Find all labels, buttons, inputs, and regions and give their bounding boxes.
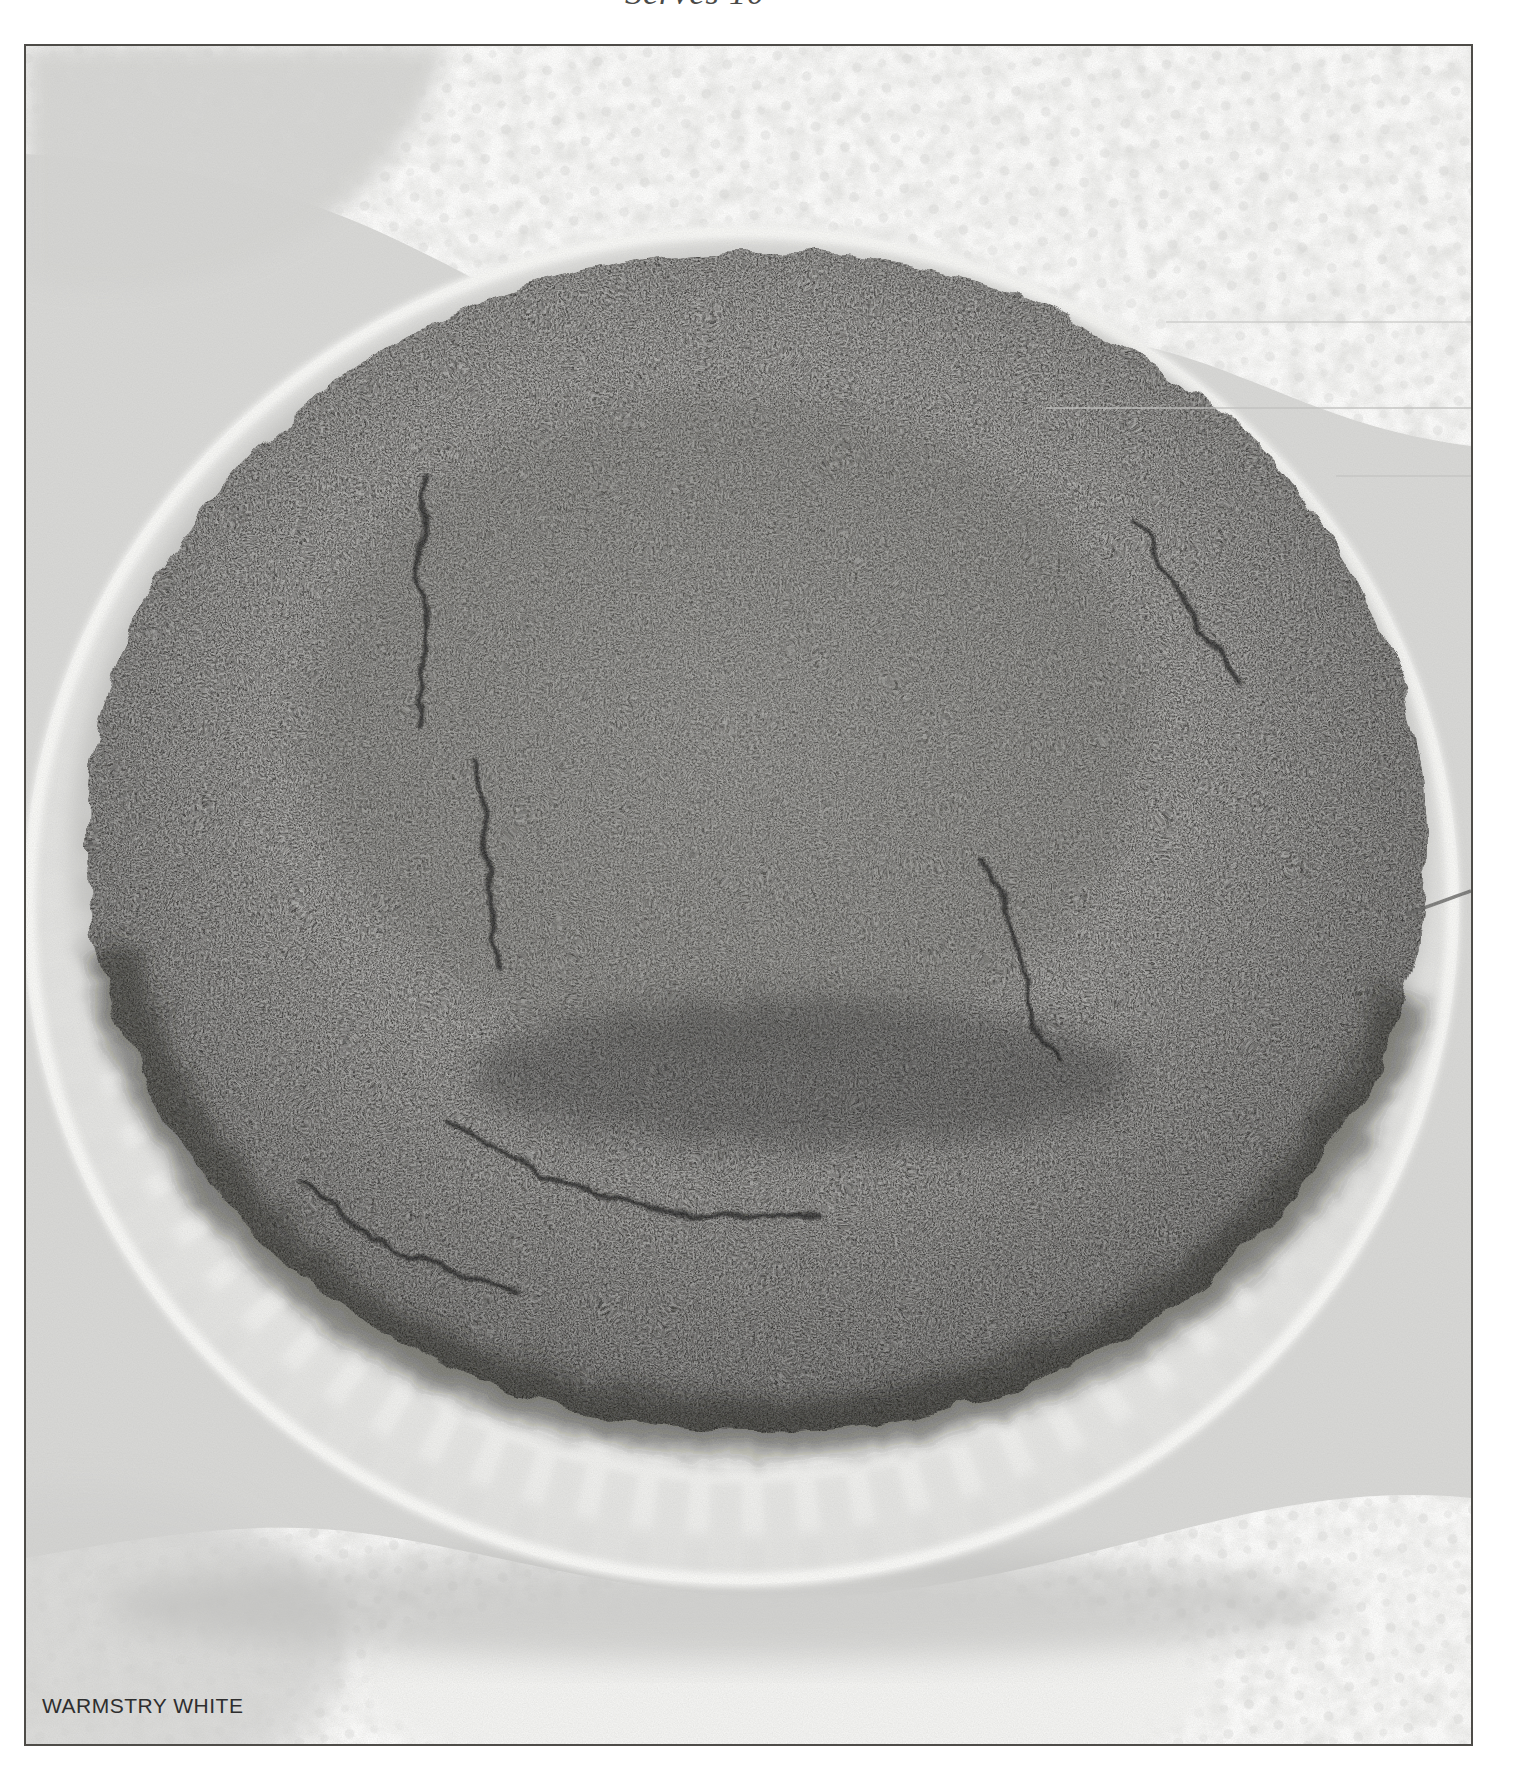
serves-heading: Serves 10 bbox=[0, 0, 1390, 12]
photo-grain bbox=[26, 46, 1471, 1744]
photo-caption: WARMSTRY WHITE bbox=[42, 1694, 243, 1718]
cookbook-page: { "heading": { "serves_label": "Serves 1… bbox=[0, 0, 1516, 1786]
cake-photo bbox=[26, 46, 1471, 1744]
photo-frame: WARMSTRY WHITE bbox=[24, 44, 1473, 1746]
